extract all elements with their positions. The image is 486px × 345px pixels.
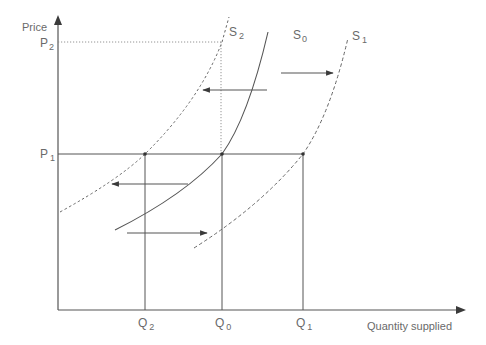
price-label-p2: P2 [40,36,54,52]
supply-curves [60,17,348,248]
y-axis-arrowhead-icon [54,15,62,25]
x-axis-label: Quantity supplied [367,320,452,332]
curve-s1 [194,38,348,248]
quantity-label-q2: Q2 [138,316,154,332]
curve-label-s0: S0 [293,28,307,44]
curve-label-s1: S1 [352,29,367,45]
point-p1-q2 [143,152,147,156]
x-axis-arrowhead-icon [456,306,466,314]
labels: Price Quantity supplied P2 P1 Q2 Q0 Q1 S… [22,21,452,332]
price-label-p1: P1 [40,147,55,163]
quantity-label-q1: Q1 [296,316,312,332]
curve-label-s2: S2 [229,25,244,41]
point-p1-q1 [301,152,305,156]
diagram-canvas: Price Quantity supplied P2 P1 Q2 Q0 Q1 S… [0,0,486,345]
axes [54,15,466,314]
quantity-label-q0: Q0 [215,316,231,332]
point-p1-q0 [220,152,224,156]
y-axis-label: Price [22,21,47,33]
guide-lines [58,42,303,310]
supply-shift-diagram: Price Quantity supplied P2 P1 Q2 Q0 Q1 S… [0,0,486,345]
curve-s0 [115,32,268,230]
